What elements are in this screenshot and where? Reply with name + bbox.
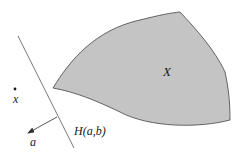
point-label: x [12, 92, 19, 106]
normal-label: a [30, 135, 36, 149]
hyperplane-label: H(a,b) [73, 124, 106, 138]
diagram-canvas: X x H(a,b) a [0, 0, 245, 157]
hyperplane-line [18, 36, 74, 148]
point-x-dot [14, 88, 17, 91]
normal-vector-arrow [28, 117, 57, 133]
convex-set-x [53, 12, 230, 125]
set-label: X [162, 64, 172, 79]
